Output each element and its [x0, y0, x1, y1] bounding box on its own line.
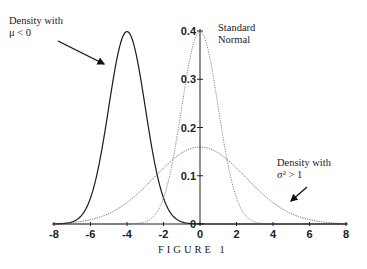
x-tick-label: -8 [49, 228, 59, 240]
annotation-std-line1: Standard [218, 22, 255, 34]
annotation-sigma-line1: Density with [277, 157, 331, 169]
x-tick-label: -2 [159, 228, 169, 240]
y-tick-label: 0.4 [181, 25, 197, 37]
y-tick-label: 0.3 [181, 73, 196, 85]
x-tick-label: 6 [306, 228, 312, 240]
x-tick-label: 8 [343, 228, 349, 240]
y-tick-label: 0 [190, 218, 196, 230]
arrow-mu-negative [58, 41, 104, 64]
annotation-mu-line2: μ < 0 [9, 27, 63, 39]
annotation-standard-normal: Standard Normal [218, 22, 255, 46]
y-tick-label: 0.2 [181, 122, 196, 134]
x-tick-label: 4 [270, 228, 277, 240]
annotation-mu-negative: Density with μ < 0 [9, 15, 63, 39]
y-tick-label: 0.1 [181, 170, 196, 182]
annotation-sigma-large: Density with σ² > 1 [277, 157, 331, 181]
axes: -8-6-4-20246800.10.20.30.4 [49, 25, 349, 240]
annotation-mu-line1: Density with [9, 15, 63, 27]
x-tick-label: 2 [233, 228, 239, 240]
x-tick-label: 0 [197, 228, 203, 240]
annotation-sigma-line2: σ² > 1 [277, 169, 331, 181]
density-chart: -8-6-4-20246800.10.20.30.4 [0, 0, 367, 269]
arrow-sigma-large [291, 187, 307, 201]
x-tick-label: -4 [122, 228, 133, 240]
figure-caption: FIGURE 1 [158, 244, 228, 255]
annotation-std-line2: Normal [218, 34, 255, 46]
x-tick-label: -6 [86, 228, 96, 240]
